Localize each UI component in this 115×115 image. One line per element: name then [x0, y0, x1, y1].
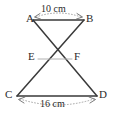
vertex-label-F: F	[74, 51, 80, 62]
segment-A-to-D	[33, 20, 97, 96]
geometry-figure: A B E F C D 10 cm 16 cm	[0, 0, 115, 115]
vertex-label-E: E	[28, 51, 35, 62]
dimension-label-ab: 10 cm	[41, 4, 66, 14]
vertex-label-B: B	[86, 13, 93, 24]
vertex-label-A: A	[26, 13, 34, 24]
vertex-label-D: D	[99, 89, 107, 100]
dimension-cd-arrow-right-icon	[89, 97, 96, 103]
vertex-label-C: C	[5, 89, 12, 100]
dimension-label-cd: 16 cm	[40, 99, 65, 109]
